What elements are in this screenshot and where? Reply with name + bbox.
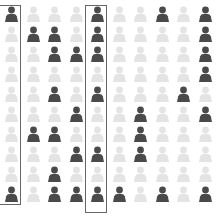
grid-cell bbox=[44, 104, 66, 124]
person-icon bbox=[133, 186, 148, 202]
grid-cell bbox=[44, 84, 66, 104]
person-icon bbox=[4, 86, 19, 102]
person-icon bbox=[112, 126, 127, 142]
person-icon bbox=[69, 66, 84, 82]
grid-cell bbox=[87, 64, 109, 84]
person-icon bbox=[133, 46, 148, 62]
person-icon bbox=[133, 6, 148, 22]
person-icon bbox=[69, 126, 84, 142]
person-icon bbox=[4, 126, 19, 142]
grid-cell bbox=[44, 24, 66, 44]
grid-cell bbox=[44, 64, 66, 84]
person-icon bbox=[4, 146, 19, 162]
person-icon bbox=[176, 146, 191, 162]
person-icon bbox=[176, 6, 191, 22]
grid-cell bbox=[152, 84, 174, 104]
person-icon bbox=[133, 26, 148, 42]
grid-cell bbox=[109, 104, 131, 124]
person-icon bbox=[47, 166, 62, 182]
person-icon bbox=[26, 46, 41, 62]
grid-cell bbox=[87, 104, 109, 124]
grid-cell bbox=[130, 184, 152, 204]
grid-cell bbox=[1, 104, 23, 124]
grid-cell bbox=[195, 64, 217, 84]
grid-cell bbox=[1, 24, 23, 44]
person-icon bbox=[4, 26, 19, 42]
person-icon bbox=[112, 166, 127, 182]
grid-cell bbox=[23, 64, 45, 84]
icon-grid bbox=[1, 4, 216, 204]
grid-cell bbox=[109, 44, 131, 64]
person-icon bbox=[176, 186, 191, 202]
grid-cell bbox=[173, 44, 195, 64]
grid-cell bbox=[23, 184, 45, 204]
person-icon bbox=[198, 46, 213, 62]
person-icon bbox=[26, 166, 41, 182]
person-icon bbox=[90, 46, 105, 62]
grid-cell bbox=[23, 4, 45, 24]
person-icon bbox=[26, 66, 41, 82]
person-icon bbox=[176, 166, 191, 182]
person-icon bbox=[47, 186, 62, 202]
grid-cell bbox=[152, 24, 174, 44]
person-icon bbox=[47, 26, 62, 42]
grid-cell bbox=[66, 24, 88, 44]
person-icon bbox=[155, 126, 170, 142]
person-icon bbox=[155, 186, 170, 202]
person-icon bbox=[133, 146, 148, 162]
person-icon bbox=[155, 146, 170, 162]
grid-cell bbox=[66, 164, 88, 184]
person-icon bbox=[90, 186, 105, 202]
person-icon bbox=[47, 86, 62, 102]
person-icon bbox=[176, 106, 191, 122]
person-icon bbox=[112, 6, 127, 22]
grid-cell bbox=[173, 144, 195, 164]
grid-cell bbox=[23, 164, 45, 184]
grid-cell bbox=[66, 124, 88, 144]
person-icon bbox=[155, 6, 170, 22]
person-icon bbox=[133, 86, 148, 102]
grid-cell bbox=[1, 4, 23, 24]
grid-cell bbox=[195, 184, 217, 204]
person-icon bbox=[198, 66, 213, 82]
person-icon bbox=[90, 166, 105, 182]
person-icon bbox=[155, 106, 170, 122]
grid-cell bbox=[44, 184, 66, 204]
grid-cell bbox=[152, 44, 174, 64]
grid-cell bbox=[1, 144, 23, 164]
person-icon bbox=[90, 86, 105, 102]
person-icon bbox=[155, 46, 170, 62]
grid-cell bbox=[87, 144, 109, 164]
grid-cell bbox=[130, 164, 152, 184]
grid-cell bbox=[44, 164, 66, 184]
person-icon bbox=[155, 26, 170, 42]
person-icon bbox=[69, 86, 84, 102]
person-icon bbox=[4, 66, 19, 82]
grid-cell bbox=[109, 164, 131, 184]
person-icon bbox=[4, 6, 19, 22]
person-icon bbox=[198, 106, 213, 122]
grid-cell bbox=[23, 24, 45, 44]
person-icon bbox=[90, 146, 105, 162]
person-icon bbox=[4, 106, 19, 122]
person-icon bbox=[176, 126, 191, 142]
grid-cell bbox=[130, 24, 152, 44]
person-icon bbox=[112, 186, 127, 202]
grid-cell bbox=[152, 64, 174, 84]
grid-cell bbox=[152, 184, 174, 204]
person-icon bbox=[4, 186, 19, 202]
person-icon bbox=[198, 6, 213, 22]
grid-cell bbox=[109, 184, 131, 204]
grid-cell bbox=[87, 24, 109, 44]
grid-cell bbox=[87, 84, 109, 104]
grid-cell bbox=[1, 44, 23, 64]
person-icon bbox=[176, 66, 191, 82]
person-icon bbox=[112, 26, 127, 42]
grid-cell bbox=[130, 144, 152, 164]
grid-cell bbox=[173, 24, 195, 44]
grid-cell bbox=[66, 84, 88, 104]
person-icon bbox=[198, 26, 213, 42]
person-icon bbox=[26, 146, 41, 162]
person-icon bbox=[112, 106, 127, 122]
grid-cell bbox=[23, 44, 45, 64]
